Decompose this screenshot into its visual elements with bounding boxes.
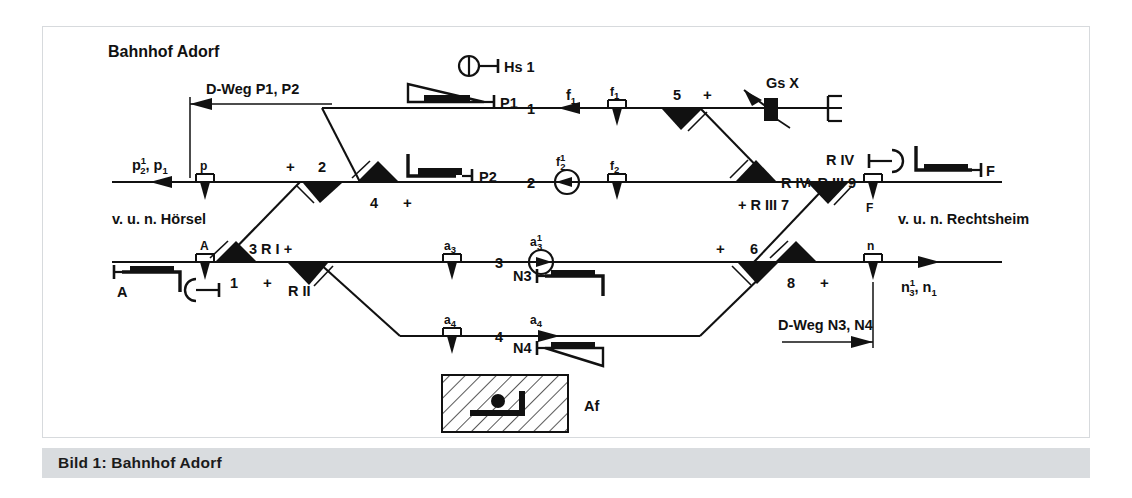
figure-frame — [42, 26, 1090, 438]
figure-page: Bahnhof Adorf — [0, 0, 1132, 498]
caption-bar: Bild 1: Bahnhof Adorf — [42, 448, 1090, 478]
caption-text: Bild 1: Bahnhof Adorf — [58, 454, 222, 472]
